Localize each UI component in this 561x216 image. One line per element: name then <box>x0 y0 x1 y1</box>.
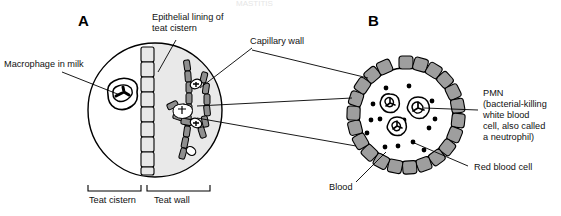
panel-letter-b: B <box>368 12 379 29</box>
teat-wall-shading <box>152 40 247 185</box>
label-pmn-line3: white blood <box>482 110 529 120</box>
figure-container: MASTITIS A B <box>0 0 561 216</box>
label-epithelial-line2: teat cistern <box>152 23 197 33</box>
panel-a-group <box>88 40 247 185</box>
label-red-blood-cell: Red blood cell <box>474 162 532 172</box>
leader-expansion-lower <box>197 118 356 146</box>
label-blood: Blood <box>329 182 353 192</box>
bracket-teat-wall <box>147 185 210 191</box>
bracket-teat-cistern <box>88 185 141 191</box>
label-pmn-line4: cell, also called <box>483 121 545 131</box>
panel-letter-a: A <box>78 12 89 29</box>
label-teat-cistern: Teat cistern <box>89 195 136 205</box>
mastitis-diagram: MASTITIS A B <box>0 0 561 216</box>
pmn-cell <box>387 117 406 136</box>
label-macrophage-in-milk: Macrophage in milk <box>4 59 84 69</box>
panel-b-group <box>347 56 466 174</box>
epithelial-lining-cells <box>141 47 154 175</box>
label-capillary-wall: Capillary wall <box>250 36 304 46</box>
label-pmn-line5: a neutrophil) <box>483 132 534 142</box>
label-teat-wall: Teat wall <box>154 195 190 205</box>
macrophage-cell <box>108 78 138 109</box>
label-epithelial-line1: Epithelial lining of <box>152 12 224 22</box>
leader-capillary-b <box>252 50 368 78</box>
diapedesis-detail-a <box>173 104 193 119</box>
faint-top-title: MASTITIS <box>236 0 273 8</box>
label-pmn-line1: PMN <box>483 88 503 98</box>
pmn-cell <box>380 94 399 113</box>
label-pmn-line2: (bacterial-killing <box>483 99 547 109</box>
